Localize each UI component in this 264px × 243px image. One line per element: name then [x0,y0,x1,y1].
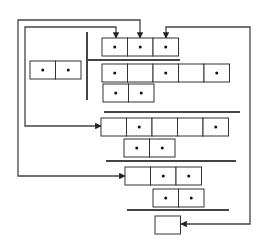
pointer-dot-icon [162,175,165,178]
pointer-dot-icon [114,92,117,95]
pointer-dot-icon [164,197,167,200]
pointer-dot-icon [113,72,116,75]
node-cell [125,167,151,185]
node-cell [152,118,178,136]
pointer-dot-icon [41,69,44,72]
row-6 [125,167,202,185]
pointer-dot-icon [135,147,138,150]
row-left-pair [30,61,81,79]
pointer-dot-icon [190,197,193,200]
pointer-dot-icon [138,126,141,129]
node-rows [30,38,230,234]
row-top [102,38,179,56]
row-7 [153,189,204,207]
pointer-dot-icon [187,175,190,178]
row-last [155,216,181,234]
linked-list-diagram [0,0,264,243]
pointer-dot-icon [67,69,70,72]
node-cell [128,64,154,82]
row-5 [124,139,175,157]
row-2 [102,64,230,82]
pointer-dot-icon [214,126,217,129]
node-cell [178,118,204,136]
node-cell [155,216,181,234]
pointer-dot-icon [113,46,116,49]
row-4 [101,118,229,136]
pointer-dot-icon [215,72,218,75]
pointer-dot-icon [164,46,167,49]
pointer-dot-icon [140,92,143,95]
node-cell [179,64,205,82]
node-cell [101,118,127,136]
pointer-dot-icon [161,147,164,150]
row-3 [103,84,154,102]
pointer-dot-icon [164,72,167,75]
pointer-dot-icon [139,46,142,49]
